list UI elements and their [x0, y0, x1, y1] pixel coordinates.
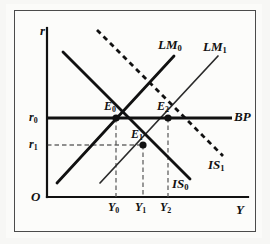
tick-label-r1: r1 — [29, 138, 38, 150]
point-E0 — [112, 114, 119, 121]
point-label-E1: E1 — [131, 128, 143, 140]
curve-label-IS1: IS1 — [208, 158, 225, 171]
point-label-E2: E2 — [157, 100, 169, 112]
x-axis-label: Y — [236, 203, 244, 216]
figure-root: r Y O r0 r1 Y0 Y1 Y2 LM0 LM1 IS0 IS1 BP … — [0, 0, 270, 244]
point-E1 — [139, 141, 146, 148]
curve-IS0 — [63, 52, 190, 179]
curve-label-LM0: LM0 — [158, 38, 182, 51]
curve-label-LM1: LM1 — [203, 40, 227, 53]
tick-label-Y2: Y2 — [160, 201, 171, 213]
curve-label-BP: BP — [234, 110, 251, 123]
tick-label-Y1: Y1 — [135, 201, 146, 213]
y-axis-label: r — [40, 24, 45, 37]
tick-label-r0: r0 — [29, 111, 38, 123]
curve-label-IS0: IS0 — [172, 177, 189, 190]
point-label-E0: E0 — [104, 100, 116, 112]
origin-label: O — [31, 190, 40, 203]
point-E2 — [164, 114, 171, 121]
tick-label-Y0: Y0 — [108, 201, 119, 213]
